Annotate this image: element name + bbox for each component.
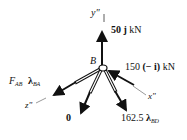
x-axis-line	[133, 86, 146, 95]
zero-force-label: 0	[66, 113, 71, 123]
joint-label: B	[90, 56, 96, 66]
force-zero-arrow	[81, 92, 90, 113]
member-ab-force-label: FAB λBA	[9, 76, 40, 87]
force-ab-arrow	[54, 82, 76, 95]
vertical-force-label: 50 j kN	[111, 25, 142, 35]
x-axis-label: x"	[148, 92, 156, 101]
z-axis-line	[36, 98, 46, 103]
horizontal-force-label: 150 (− i) kN	[125, 62, 175, 72]
member-bd-force-label: 162.5 λBD	[121, 113, 159, 124]
force-bd-arrow	[115, 91, 126, 110]
y-axis-label: y"	[91, 8, 100, 18]
joint-b	[99, 65, 107, 71]
z-axis-label: z"	[25, 101, 32, 110]
